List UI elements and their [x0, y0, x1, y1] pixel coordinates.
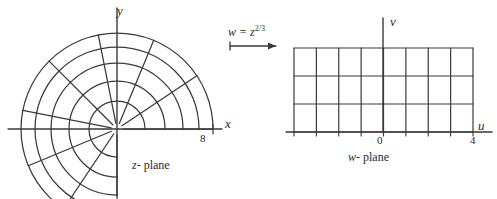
mapping-arrow-head [268, 43, 276, 50]
mapping-label: w = z2/3 [228, 24, 265, 40]
z-plane-x-tick-label: 8 [200, 132, 206, 144]
z-plane-caption-word: - plane [137, 158, 170, 172]
w-plane-caption-word: - plane [356, 150, 389, 164]
conformal-mapping-figure: y x 8 z- plane w = z2/3 v u 0 4 w- plane [0, 0, 497, 199]
z-plane-x-axis-label: x [225, 116, 231, 132]
w-plane-u-axis-label: u [478, 118, 485, 134]
z-plane-caption: z- plane [132, 158, 170, 173]
mapping-label-base: w = z [228, 25, 255, 39]
w-plane-caption-var: w [348, 150, 356, 164]
w-plane-right-tick-label: 4 [470, 134, 476, 146]
w-plane-v-axis-label: v [390, 14, 396, 30]
w-plane-origin-tick-label: 0 [377, 134, 383, 146]
w-plane-caption: w- plane [348, 150, 389, 165]
mapping-label-exponent: 2/3 [255, 24, 265, 33]
z-plane-y-axis-label: y [117, 3, 123, 19]
z-plane-ray [49, 61, 113, 125]
